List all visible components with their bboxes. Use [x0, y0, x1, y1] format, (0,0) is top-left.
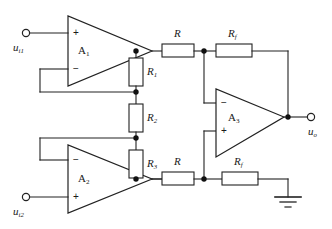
opamp-a1-plus-sign: +	[73, 28, 79, 38]
opamp-a2-label: A2	[78, 173, 90, 186]
node-a2-output	[133, 176, 138, 181]
resistor-r1-body	[129, 58, 143, 86]
resistor-r-top-body	[162, 44, 194, 57]
opamp-a1-label: A1	[78, 45, 90, 58]
node-a3-output	[285, 114, 290, 119]
resistor-r-bottom-body	[162, 172, 194, 185]
opamp-a1-minus-sign: −	[73, 64, 79, 74]
node-bottom-summing	[201, 176, 206, 181]
resistor-r2-label: R2	[147, 112, 157, 125]
circuit-schematic-svg	[0, 0, 332, 229]
circuit-diagram-canvas: A1 A2 A3 + − − + − + R1 R2 R3 R Rf R Rf …	[0, 0, 332, 229]
opamp-a3-plus-sign: +	[221, 126, 227, 136]
resistor-rf-top-body	[216, 44, 252, 57]
opamp-a2-plus-sign: +	[73, 192, 79, 202]
node-r1-r2	[133, 89, 138, 94]
resistor-rf-bottom-body	[222, 172, 258, 185]
resistor-r2-body	[129, 104, 143, 132]
resistor-r-bottom-label: R	[174, 156, 181, 169]
opamp-a3-minus-sign: −	[221, 98, 227, 108]
opamp-a3-label: A3	[228, 112, 240, 125]
terminal-uo-label: uo	[308, 126, 317, 139]
terminal-ui2-circle	[22, 193, 29, 200]
node-a1-output	[133, 48, 138, 53]
node-r2-r3	[133, 135, 138, 140]
terminal-ui1-circle	[22, 29, 29, 36]
opamp-a2-minus-sign: −	[73, 155, 79, 165]
node-top-summing	[201, 48, 206, 53]
resistor-r-top-label: R	[174, 28, 181, 41]
terminal-uo-circle	[307, 113, 314, 120]
terminal-ui1-label: ui1	[13, 42, 24, 55]
resistor-r1-label: R1	[147, 66, 157, 79]
resistor-rf-top-label: Rf	[228, 28, 237, 41]
resistor-rf-bottom-label: Rf	[234, 156, 243, 169]
resistor-r3-label: R3	[147, 158, 157, 171]
terminal-ui2-label: ui2	[13, 206, 24, 219]
resistor-r3-body	[129, 150, 143, 178]
